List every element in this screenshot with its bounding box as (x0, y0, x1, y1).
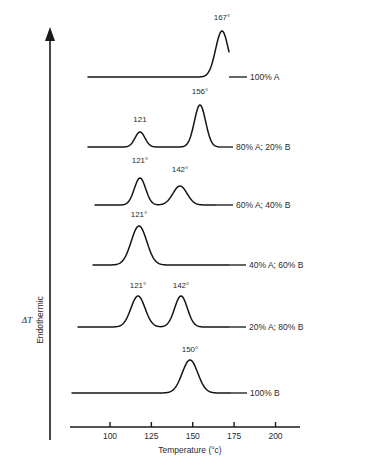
peak-temperature-label-1-0: 121 (133, 115, 147, 124)
series-label-1: 80% A; 20% B (236, 142, 291, 152)
series-label-0: 100% A (250, 72, 280, 82)
x-axis-tick-label: 200 (268, 431, 282, 441)
peak-temperature-label-4-1: 142° (173, 281, 190, 290)
x-axis-tick-label: 150 (186, 431, 200, 441)
thermogram-figure: 100125150175200Temperature (°c)Endotherm… (0, 0, 365, 474)
peak-temperature-label-2-1: 142° (172, 165, 189, 174)
trace-line-series-4 (78, 296, 228, 327)
x-axis-tick-label: 125 (144, 431, 158, 441)
peak-temperature-label-4-0: 121° (130, 281, 147, 290)
trace-line-series-2 (95, 178, 216, 205)
peak-temperature-label-2-0: 121° (132, 156, 149, 165)
series-label-3: 40% A; 60% B (249, 260, 304, 270)
figure-page: 100125150175200Temperature (°c)Endotherm… (0, 0, 365, 474)
x-axis-title: Temperature (°c) (158, 445, 222, 455)
peak-temperature-label-0-0: 167° (214, 13, 231, 22)
traces-group (72, 31, 247, 393)
series-label-4: 20% A; 80% B (249, 322, 304, 332)
trace-line-series-3 (93, 226, 228, 265)
y-axis-endothermic-label: Endothermic (35, 295, 45, 343)
x-axis-tick-label: 175 (227, 431, 241, 441)
series-label-2: 60% A; 40% B (236, 200, 291, 210)
axes-group (45, 27, 300, 440)
labels-group: 100125150175200Temperature (°c)Endotherm… (21, 13, 304, 455)
trace-line-series-1 (88, 105, 218, 147)
trace-line-series-0 (88, 31, 229, 77)
peak-temperature-label-5-0: 150° (182, 345, 199, 354)
x-axis-tick-label: 100 (103, 431, 117, 441)
y-axis-arrow-icon (45, 27, 55, 41)
peak-temperature-label-1-1: 156° (192, 87, 209, 96)
peak-temperature-label-3-0: 121° (131, 210, 148, 219)
trace-line-series-5 (72, 360, 230, 393)
y-axis-delta-t-label: ΔT (21, 315, 33, 325)
series-label-5: 100% B (250, 388, 280, 398)
